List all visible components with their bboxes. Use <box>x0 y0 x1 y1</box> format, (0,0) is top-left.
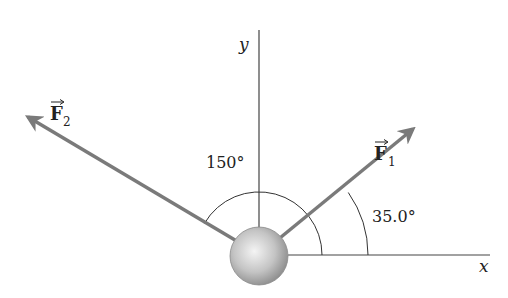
force-f2-arrow <box>28 117 240 243</box>
force-f2-label: F 2 <box>50 100 71 130</box>
angle-label-150: 150° <box>206 153 245 172</box>
diagram-canvas: y x F 1 F 2 150° 35.0° <box>0 0 508 298</box>
svg-text:1: 1 <box>388 155 396 169</box>
svg-text:F: F <box>374 143 387 164</box>
angle-label-35: 35.0° <box>372 207 416 226</box>
svg-text:2: 2 <box>63 115 71 129</box>
svg-text:F: F <box>50 103 63 124</box>
ball <box>230 227 288 285</box>
force-diagram: y x F 1 F 2 150° 35.0° <box>0 0 508 298</box>
x-axis-label: x <box>479 256 489 276</box>
y-axis-label: y <box>238 34 249 54</box>
angle-arc-35 <box>348 193 368 256</box>
